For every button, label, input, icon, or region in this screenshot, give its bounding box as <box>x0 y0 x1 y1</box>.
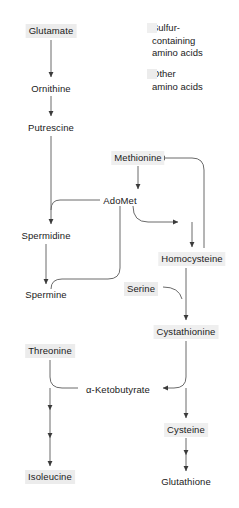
node-adomet[interactable]: AdoMet <box>100 194 139 208</box>
edge-adomet-spermine <box>51 206 120 289</box>
edge-cystathionine-ketobutyrate <box>163 341 186 388</box>
node-methionine[interactable]: Methionine <box>111 151 164 165</box>
edge-adomet-homocysteine <box>133 206 178 222</box>
node-ketobutyrate[interactable]: α-Ketobutyrate <box>83 383 153 397</box>
legend-label-sulfur: Sulfur- containing amino acids <box>152 22 203 60</box>
node-homocysteine[interactable]: Homocysteine <box>158 252 225 266</box>
legend-swatch-sulfur-icon <box>147 23 157 33</box>
legend-item-sulfur: Sulfur- containing amino acids <box>152 22 203 62</box>
node-spermidine[interactable]: Spermidine <box>18 229 73 243</box>
node-glutamate[interactable]: Glutamate <box>26 24 77 38</box>
legend-swatch-other-icon <box>147 69 157 79</box>
node-threonine[interactable]: Threonine <box>25 344 75 358</box>
legend-label-other: Other amino acids <box>152 68 203 93</box>
node-ornithine[interactable]: Ornithine <box>28 82 73 96</box>
node-putrescine[interactable]: Putrescine <box>25 121 77 135</box>
node-serine[interactable]: Serine <box>124 282 158 296</box>
node-spermine[interactable]: Spermine <box>22 288 69 302</box>
node-isoleucine[interactable]: Isoleucine <box>25 470 75 484</box>
pathway-diagram: Glutamate Ornithine Putrescine Methionin… <box>0 0 239 508</box>
edge-homocysteine-methionine <box>160 158 204 248</box>
legend: Sulfur- containing amino acids Other ami… <box>152 22 203 96</box>
node-cystathionine[interactable]: Cystathionine <box>154 325 219 339</box>
edge-threonine-ketobutyrate <box>50 360 78 388</box>
legend-item-other: Other amino acids <box>152 68 203 96</box>
edge-serine-cystathionine <box>163 287 182 299</box>
node-cysteine[interactable]: Cysteine <box>164 423 208 437</box>
node-glutathione[interactable]: Glutathione <box>158 475 214 489</box>
edge-adomet-spermidine <box>51 200 100 210</box>
